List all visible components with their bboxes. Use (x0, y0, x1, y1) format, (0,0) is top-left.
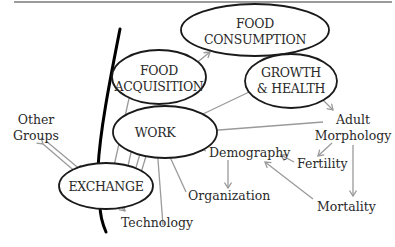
exchange-label: EXCHANGE (69, 179, 144, 194)
node-work: WORK (113, 106, 217, 158)
food-acquisition-label-2: ACQUISITION (114, 79, 204, 94)
food-consumption-label-1: FOOD (236, 16, 274, 31)
organization-label: Organization (188, 188, 270, 203)
node-growth-health: GROWTH & HEALTH (245, 54, 337, 108)
arrow-other-groups-exchange-2 (46, 141, 82, 171)
work-label: WORK (135, 125, 177, 140)
food-consumption-label-2: CONSUMPTION (204, 32, 307, 47)
other-groups-label-2: Groups (13, 128, 59, 143)
mortality-label: Mortality (317, 199, 377, 214)
node-exchange: EXCHANGE (59, 163, 153, 209)
growth-health-label-1: GROWTH (261, 65, 321, 80)
growth-health-label-2: & HEALTH (257, 81, 326, 96)
fertility-label: Fertility (297, 156, 348, 171)
technology-label: Technology (121, 215, 194, 230)
diagram-canvas: FOOD CONSUMPTION FOOD ACQUISITION GROWTH… (0, 0, 395, 247)
food-acquisition-label-1: FOOD (140, 63, 178, 78)
node-food-consumption: FOOD CONSUMPTION (181, 4, 329, 56)
adult-morphology-label-1: Adult (335, 112, 370, 127)
demography-label: Demography (209, 145, 291, 160)
diagram-svg: FOOD CONSUMPTION FOOD ACQUISITION GROWTH… (0, 0, 395, 247)
arrow-morphology-to-fertility (318, 143, 332, 156)
other-groups-label-1: Other (18, 112, 55, 127)
adult-morphology-label-2: Morphology (315, 128, 392, 143)
node-food-acquisition: FOOD ACQUISITION (112, 50, 206, 104)
